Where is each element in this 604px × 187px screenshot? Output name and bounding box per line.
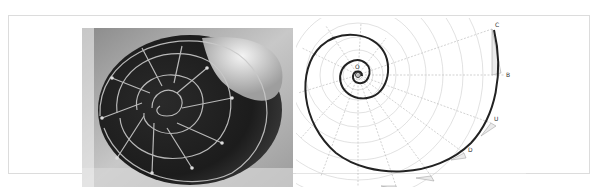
label-b: B xyxy=(506,71,510,78)
label-center: O xyxy=(355,63,360,70)
label-c: C xyxy=(495,21,499,28)
label-u: U xyxy=(494,115,498,122)
label-d: D xyxy=(468,146,473,153)
spiral-diagram: O C B U D xyxy=(296,18,526,187)
nautilus-photo xyxy=(82,28,293,187)
